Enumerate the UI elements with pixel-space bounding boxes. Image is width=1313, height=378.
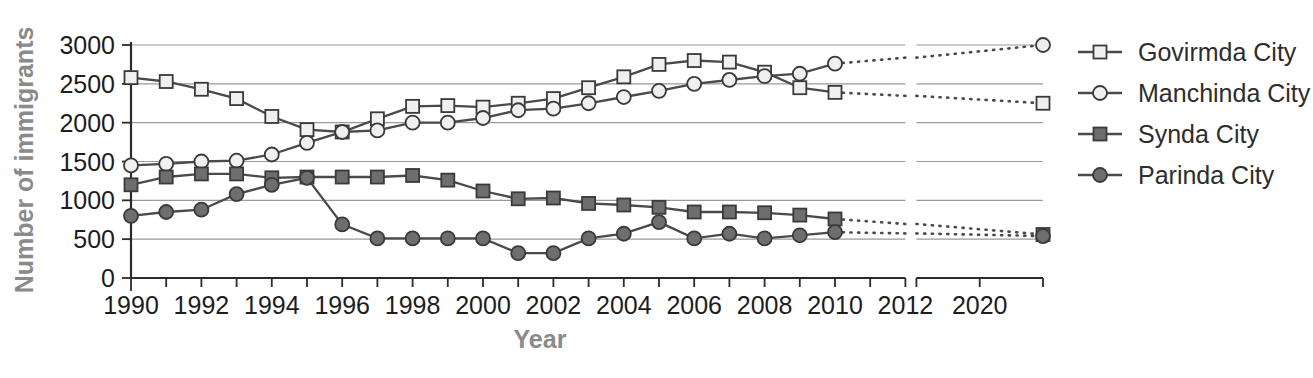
y-tick-label: 500	[73, 225, 115, 253]
legend-marker	[1093, 168, 1107, 182]
data-point-marker	[793, 228, 807, 242]
data-point-marker	[160, 75, 173, 88]
data-point-marker	[758, 69, 772, 83]
data-point-marker	[723, 56, 736, 69]
data-point-marker	[582, 81, 595, 94]
data-point-marker	[300, 136, 314, 150]
data-point-marker	[582, 96, 596, 110]
legend-item-govirmda-city[interactable]: Govirmda City	[1078, 38, 1297, 66]
data-point-marker	[758, 206, 771, 219]
line-chart: 0500100015002000250030001990199219941996…	[0, 0, 1313, 378]
data-point-marker	[476, 111, 490, 125]
data-point-marker	[300, 171, 314, 185]
data-point-marker	[617, 90, 631, 104]
y-tick-label: 2500	[59, 70, 115, 98]
y-tick-label: 1000	[59, 186, 115, 214]
x-tick-label: 2010	[807, 291, 863, 319]
chart-container: 0500100015002000250030001990199219941996…	[0, 0, 1313, 378]
data-point-marker	[828, 57, 842, 71]
x-tick-label: 2006	[666, 291, 722, 319]
legend-marker	[1094, 46, 1107, 59]
data-point-marker	[546, 102, 560, 116]
data-point-marker	[160, 171, 173, 184]
data-point-marker	[125, 71, 138, 84]
data-point-marker	[617, 70, 630, 83]
x-tick-label: 1996	[314, 291, 370, 319]
data-point-marker	[723, 205, 736, 218]
data-point-marker	[194, 155, 208, 169]
data-point-marker	[829, 86, 842, 99]
data-point-marker	[511, 246, 525, 260]
axes	[122, 42, 1043, 291]
legend-label: Manchinda City	[1138, 79, 1311, 107]
series-projection	[835, 219, 905, 224]
data-point-marker	[1037, 97, 1050, 110]
series-synda-city	[125, 167, 1050, 241]
x-tick-label: 2008	[737, 291, 793, 319]
data-point-marker	[652, 215, 666, 229]
data-point-marker	[335, 217, 349, 231]
legend: Govirmda CityManchinda CitySynda CityPar…	[1078, 38, 1311, 189]
data-point-marker	[617, 198, 630, 211]
data-point-marker	[828, 225, 842, 239]
series-parinda-city	[124, 171, 1050, 260]
data-point-marker	[476, 231, 490, 245]
data-point-marker	[406, 231, 420, 245]
data-point-marker	[159, 205, 173, 219]
series-manchinda-city	[124, 38, 1050, 172]
data-point-marker	[441, 116, 455, 130]
data-point-marker	[829, 212, 842, 225]
y-tick-label: 3000	[59, 31, 115, 59]
series-projection	[916, 45, 1043, 58]
x-tick-label: 2012	[878, 291, 934, 319]
data-point-marker	[441, 174, 454, 187]
x-tick-label: 2020	[952, 291, 1008, 319]
legend-item-manchinda-city[interactable]: Manchinda City	[1078, 79, 1311, 107]
legend-label: Govirmda City	[1138, 38, 1297, 66]
data-point-marker	[1036, 38, 1050, 52]
legend-marker	[1094, 128, 1107, 141]
legend-item-synda-city[interactable]: Synda City	[1078, 120, 1259, 148]
series-projection	[916, 96, 1043, 103]
data-point-marker	[265, 148, 279, 162]
x-tick-label: 2002	[526, 291, 582, 319]
data-point-marker	[441, 99, 454, 112]
data-point-marker	[124, 209, 138, 223]
data-point-marker	[722, 73, 736, 87]
data-point-marker	[793, 67, 807, 81]
data-point-marker	[511, 103, 525, 117]
y-tick-label: 0	[101, 264, 115, 292]
x-tick-label: 1998	[385, 291, 441, 319]
y-tick-label: 2000	[59, 109, 115, 137]
y-axis-title: Number of immigrants	[10, 27, 38, 294]
data-point-marker	[546, 246, 560, 260]
data-point-marker	[441, 231, 455, 245]
legend-label: Synda City	[1138, 120, 1259, 148]
data-point-marker	[230, 92, 243, 105]
x-tick-label: 2004	[596, 291, 652, 319]
data-point-marker	[758, 231, 772, 245]
data-point-marker	[688, 54, 701, 67]
data-point-marker	[582, 197, 595, 210]
data-point-marker	[687, 77, 701, 91]
x-axis-title: Year	[514, 325, 567, 353]
data-point-marker	[230, 154, 244, 168]
data-point-marker	[124, 158, 138, 172]
data-point-marker	[652, 84, 666, 98]
data-point-marker	[687, 231, 701, 245]
data-point-marker	[336, 171, 349, 184]
data-point-marker	[406, 169, 419, 182]
data-point-marker	[1036, 229, 1050, 243]
data-point-marker	[406, 100, 419, 113]
legend-item-parinda-city[interactable]: Parinda City	[1078, 161, 1275, 189]
x-tick-label: 1990	[103, 291, 159, 319]
data-point-marker	[194, 203, 208, 217]
data-point-marker	[125, 178, 138, 191]
data-point-marker	[370, 123, 384, 137]
series-projection	[835, 92, 905, 95]
data-point-marker	[582, 231, 596, 245]
series-projection	[835, 58, 905, 64]
data-point-marker	[722, 227, 736, 241]
data-point-marker	[335, 125, 349, 139]
data-point-marker	[793, 209, 806, 222]
